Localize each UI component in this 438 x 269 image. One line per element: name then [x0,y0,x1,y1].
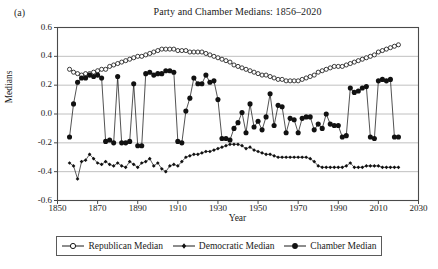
data-point [373,164,377,168]
legend-item-republican[interactable]: Republican Median [61,241,163,251]
data-point [152,50,156,54]
data-point [192,153,196,157]
data-point [296,130,301,135]
data-point [276,77,280,81]
data-point [128,57,132,61]
data-point [199,81,204,86]
data-point [320,126,325,131]
data-point [360,57,364,61]
data-point [280,155,284,159]
data-point [280,104,285,109]
data-point [396,43,400,47]
data-point [188,154,192,158]
y-tick-label: 0.4 [26,51,52,60]
data-point [252,70,256,74]
legend-key-chamber-filled-circle-icon [283,241,307,251]
data-point [251,124,256,129]
data-point [397,165,401,169]
data-point [220,57,224,61]
data-point [284,155,288,159]
data-point [236,64,240,68]
x-tick-label: 2030 [397,203,438,213]
data-point [215,97,220,102]
data-point [216,56,220,60]
data-point [243,130,248,135]
data-point [104,67,108,71]
data-point [364,84,369,89]
legend-label-republican: Republican Median [88,241,163,251]
x-tick-label: 1850 [36,203,80,213]
data-point [92,70,96,74]
data-point [124,59,128,63]
x-tick-label: 1970 [276,203,320,213]
data-point [324,111,329,116]
data-point [268,91,273,96]
data-point [312,127,317,132]
data-point [268,153,272,157]
data-point [231,126,236,131]
data-point [216,147,220,151]
y-tick-label: -0.4 [26,167,52,176]
data-point [332,165,336,169]
data-point [120,60,124,64]
data-point [328,165,332,169]
data-point [240,66,244,70]
legend-key-democratic-diamond-icon [172,241,196,251]
data-point [224,144,228,148]
data-point [176,49,180,53]
data-point [164,47,168,51]
legend-item-chamber[interactable]: Chamber Median [283,241,376,251]
data-point [100,67,104,71]
data-point [388,77,393,82]
data-point [352,60,356,64]
data-point [272,123,277,128]
data-point [148,51,152,55]
data-point [239,110,244,115]
data-point [212,54,216,58]
data-point [308,114,313,119]
data-point [71,70,75,74]
data-point [127,139,132,144]
data-point [179,140,184,145]
data-point [256,119,261,124]
data-point [67,135,72,140]
y-tick-label: -0.2 [26,138,52,147]
data-point [224,59,228,63]
data-point [139,143,144,148]
data-point [316,122,321,127]
data-point [368,54,372,58]
data-point [156,49,160,53]
data-point [144,53,148,57]
data-point [208,150,212,154]
data-point [324,165,328,169]
data-point [136,54,140,58]
data-point [348,86,353,91]
data-point [300,155,304,159]
x-tick-label: 2010 [356,203,400,213]
data-point [172,163,176,167]
data-point [84,72,88,76]
data-point [235,120,240,125]
data-point [187,96,192,101]
figure-panel-a: (a) Party and Chamber Medians: 1856–2020… [0,0,438,269]
legend-label-chamber: Chamber Median [310,241,376,251]
data-point [389,165,393,169]
data-point [336,64,340,68]
data-point [132,56,136,60]
data-point [324,67,328,71]
legend-key-republican-open-circle-icon [61,241,85,251]
data-point [340,64,344,68]
data-point [372,53,376,57]
data-point [200,50,204,54]
data-point [248,69,252,73]
data-point [288,79,292,83]
data-point [296,79,300,83]
data-point [184,49,188,53]
data-point [264,114,269,119]
data-point [183,109,188,114]
data-point [171,70,176,75]
data-point [208,53,212,57]
data-point [332,64,336,68]
legend-item-democratic[interactable]: Democratic Median [172,241,275,251]
data-point [76,72,80,76]
